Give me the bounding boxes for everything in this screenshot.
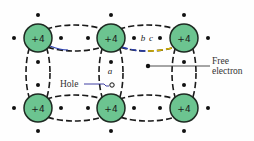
electron-dot [182, 60, 186, 64]
electron-dot [182, 83, 186, 87]
free-electron-dot [146, 64, 150, 68]
atom-bottom-middle: +4 [97, 94, 125, 122]
atom-top-right: +4 [170, 24, 198, 52]
lattice-diagram: +4 +4 +4 +4 +4 +4 a b c Hole Free electr… [0, 0, 254, 141]
hole-pointer-line [84, 84, 109, 86]
label-a: a [108, 66, 113, 76]
electron-dot [86, 36, 90, 40]
atom-charge-label: +4 [177, 34, 191, 44]
electron-dot [36, 60, 40, 64]
electron-dot [36, 13, 40, 17]
electron-dot [132, 36, 136, 40]
electron-dot [206, 36, 210, 40]
electron-dot [182, 129, 186, 133]
free-electron-label-line2: electron [212, 66, 243, 76]
electron-dot [59, 36, 63, 40]
electron-dot [158, 36, 162, 40]
atom-top-middle: +4 [97, 24, 125, 52]
atom-charge-label: +4 [177, 104, 191, 114]
atom-charge-label: +4 [104, 34, 118, 44]
label-c: c [149, 33, 153, 43]
lattice-svg: +4 +4 +4 +4 +4 +4 a b c Hole Free electr… [0, 0, 254, 141]
atom-bottom-left: +4 [24, 94, 52, 122]
electron-dot [59, 106, 63, 110]
electron-dot [132, 106, 136, 110]
atom-charge-label: +4 [31, 34, 45, 44]
electron-dot [12, 36, 16, 40]
atom-charge-label: +4 [104, 104, 118, 114]
atom-charge-label: +4 [31, 104, 45, 114]
electron-dot [109, 13, 113, 17]
electron-dot [36, 83, 40, 87]
electron-dot [86, 106, 90, 110]
electron-dot [158, 106, 162, 110]
electron-dot [109, 129, 113, 133]
electron-dot [182, 13, 186, 17]
atom-bottom-right: +4 [170, 94, 198, 122]
bond-highlight-yellow [148, 48, 172, 51]
electron-dot [109, 60, 113, 64]
label-b: b [141, 33, 146, 43]
hole-marker [110, 83, 114, 87]
electron-dot [206, 106, 210, 110]
atom-top-left: +4 [24, 24, 52, 52]
electron-dot [36, 129, 40, 133]
hole-label: Hole [60, 79, 78, 89]
free-electron-label-line1: Free [212, 56, 229, 66]
electron-dot [12, 106, 16, 110]
